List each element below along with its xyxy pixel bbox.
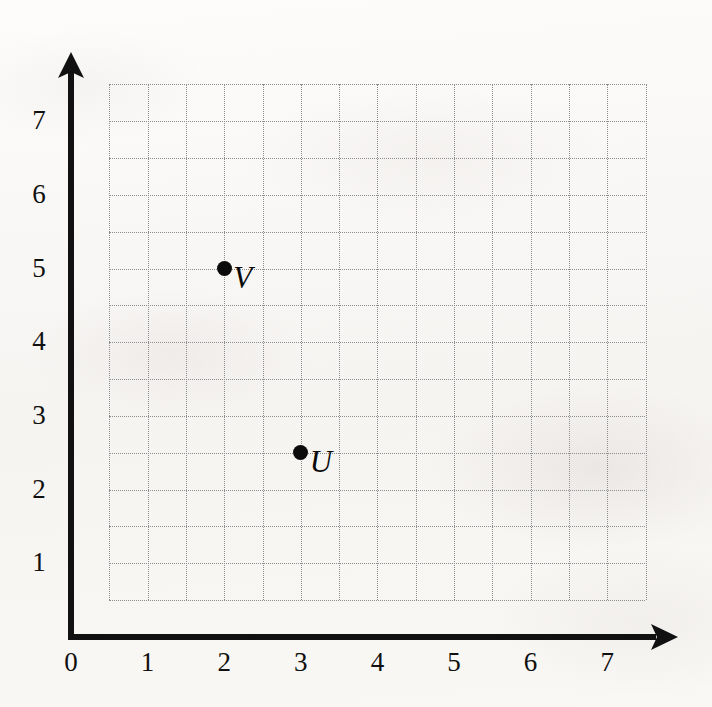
- x-tick-label: 2: [204, 649, 244, 676]
- gridline-vertical: [148, 84, 149, 600]
- x-tick-label: 3: [281, 649, 321, 676]
- gridline-vertical: [224, 84, 225, 600]
- gridline-vertical: [377, 84, 378, 600]
- x-tick-label: 7: [587, 649, 627, 676]
- y-tick-label: 7: [19, 107, 59, 134]
- coordinate-grid-figure: 012345671234567VU: [0, 0, 712, 707]
- gridline-vertical: [531, 84, 532, 600]
- gridline-vertical: [109, 84, 110, 600]
- data-point-label-u: U: [310, 446, 332, 477]
- y-tick-label: 6: [19, 181, 59, 208]
- gridline-vertical: [454, 84, 455, 600]
- plot-area: 012345671234567VU: [0, 0, 712, 707]
- gridline-vertical: [646, 84, 647, 600]
- y-tick-label: 1: [19, 549, 59, 576]
- gridline-horizontal: [109, 600, 645, 601]
- x-tick-label: 4: [357, 649, 397, 676]
- gridline-vertical: [263, 84, 264, 600]
- data-point-v[interactable]: [217, 261, 232, 276]
- data-point-u[interactable]: [293, 445, 308, 460]
- gridline-vertical: [186, 84, 187, 600]
- gridline-vertical: [339, 84, 340, 600]
- x-tick-label: 5: [434, 649, 474, 676]
- data-point-label-v: V: [233, 262, 252, 293]
- x-tick-label: 0: [51, 649, 91, 676]
- x-axis: [68, 634, 656, 640]
- gridline-vertical: [607, 84, 608, 600]
- y-tick-label: 3: [19, 402, 59, 429]
- y-tick-label: 4: [19, 328, 59, 355]
- x-tick-label: 6: [511, 649, 551, 676]
- y-tick-label: 5: [19, 255, 59, 282]
- y-axis: [68, 72, 74, 640]
- gridline-vertical: [416, 84, 417, 600]
- y-tick-label: 2: [19, 476, 59, 503]
- gridline-vertical: [492, 84, 493, 600]
- gridline-vertical: [301, 84, 302, 600]
- gridline-vertical: [569, 84, 570, 600]
- x-tick-label: 1: [128, 649, 168, 676]
